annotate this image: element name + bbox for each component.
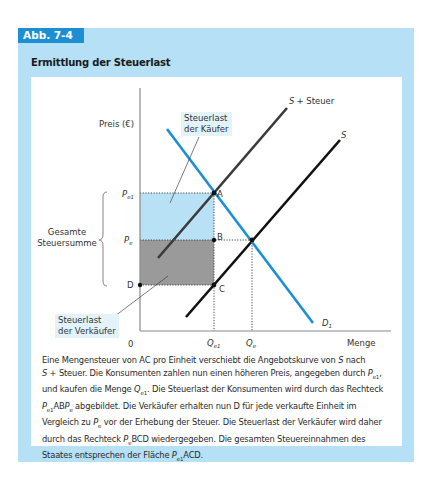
point-c	[212, 283, 217, 288]
callout-buyer-line2: der Käufer	[184, 124, 229, 135]
point-d-label: D	[127, 280, 134, 290]
brace-label-line1: Gesamte	[48, 227, 86, 237]
x-axis-label: Menge	[347, 338, 376, 348]
point-a-label: A	[217, 189, 223, 199]
origin-label: 0	[128, 339, 133, 349]
y-axis-label: Preis (€)	[99, 119, 134, 129]
callout-seller-line1: Steuerlast	[58, 315, 116, 326]
point-b-label: B	[217, 232, 223, 242]
callout-seller-line2: der Verkäufer	[58, 326, 116, 337]
caption-line-4: Pe1ABPe abgebildet. Die Verkäufer erhalt…	[42, 400, 402, 416]
quantity-qe1-label: Qe1	[207, 338, 221, 349]
callout-buyer-burden: Steuerlast der Käufer	[181, 112, 232, 136]
caption-line-3: und kaufen die Menge Qe1. Die Steuerlast…	[42, 383, 402, 399]
caption-line-7: Staates entsprechen der Fläche Pe1ACD.	[42, 449, 402, 465]
point-b	[212, 238, 216, 242]
price-pe1-label: Pe1	[122, 189, 134, 200]
caption-line-1: Eine Mengensteuer von AC pro Einheit ver…	[42, 354, 402, 367]
point-equilibrium	[250, 238, 255, 243]
brace-total-tax	[99, 192, 107, 286]
callout-seller-burden: Steuerlast der Verkäufer	[55, 314, 119, 338]
quantity-qe-label: Qe	[246, 338, 257, 349]
callout-buyer-line1: Steuerlast	[184, 113, 229, 124]
caption-line-5: Vergleich zu Pe vor der Erhebung der Ste…	[42, 416, 402, 432]
brace-label-line2: Steuersumme	[37, 238, 97, 248]
demand-label: D1	[322, 318, 332, 329]
figure-caption: Eine Mengensteuer von AC pro Einheit ver…	[42, 354, 402, 466]
supply-label: S	[341, 130, 347, 140]
buyer-burden-area	[140, 193, 214, 240]
caption-line-2: S + Steuer. Die Konsumenten zahlen nun e…	[42, 367, 402, 383]
point-c-label: C	[219, 284, 225, 294]
seller-burden-area	[140, 240, 214, 285]
caption-line-6: durch das Rechteck PeBCD wiedergegeben. …	[42, 433, 402, 449]
point-d	[138, 283, 142, 287]
supply-tax-suffix: + Steuer	[296, 96, 334, 106]
supply-tax-label: S+ Steuer	[289, 96, 335, 106]
point-a	[212, 191, 217, 196]
price-pe-label: Pe	[124, 235, 133, 246]
